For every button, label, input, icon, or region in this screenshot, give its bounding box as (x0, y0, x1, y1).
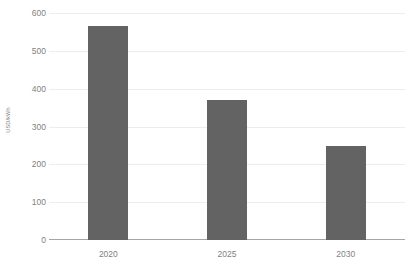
y-tick-label: 100 (16, 197, 46, 207)
bar-slot (49, 13, 168, 240)
bar-2020[interactable] (88, 26, 128, 240)
y-tick-label: 600 (16, 8, 46, 18)
x-tick-label: 2020 (49, 243, 168, 263)
bar-slot (286, 13, 405, 240)
bar-chart: USD/kWh 600 500 400 300 200 100 0 (0, 0, 415, 271)
y-tick-label: 300 (16, 122, 46, 132)
y-tick-label: 400 (16, 84, 46, 94)
x-tick-label: 2025 (168, 243, 287, 263)
bar-2030[interactable] (326, 146, 366, 240)
y-tick-label: 0 (16, 235, 46, 245)
bar-2025[interactable] (207, 100, 247, 240)
y-tick-label: 500 (16, 46, 46, 56)
x-axis-tick-labels: 2020 2025 2030 (49, 243, 405, 263)
y-tick-label: 200 (16, 159, 46, 169)
x-tick-label: 2030 (286, 243, 405, 263)
bar-slot (168, 13, 287, 240)
plot-area (49, 13, 405, 240)
bar-series (49, 13, 405, 240)
